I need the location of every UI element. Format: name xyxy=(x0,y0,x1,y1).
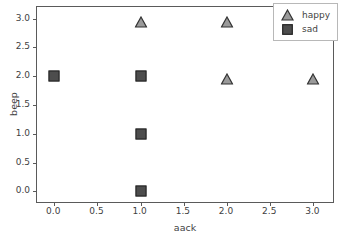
data-point-sad xyxy=(49,71,60,82)
square-icon xyxy=(279,24,295,35)
data-point-sad xyxy=(135,186,146,197)
x-axis-tick-label: 1.0 xyxy=(132,206,146,216)
data-point-happy xyxy=(307,70,320,82)
y-axis-tick-label: 0.0 xyxy=(30,185,44,195)
data-point-sad xyxy=(135,128,146,139)
data-point-happy xyxy=(221,70,234,82)
legend: happy sad xyxy=(273,3,338,41)
x-axis-tick-label: 0.5 xyxy=(89,206,103,216)
legend-label-sad: sad xyxy=(302,24,318,34)
legend-label-happy: happy xyxy=(302,10,330,20)
y-axis-tick-label: 3.0 xyxy=(30,13,44,23)
x-axis-label: aack xyxy=(174,222,196,233)
data-point-sad xyxy=(135,71,146,82)
legend-entry-sad: sad xyxy=(279,22,330,36)
x-axis-tick-label: 1.5 xyxy=(176,206,190,216)
y-axis-tick-label: 2.5 xyxy=(30,41,44,51)
scatter-plot-figure: aack beep happy sad 0.00.51.01.52.02.53.… xyxy=(0,0,341,241)
x-axis-tick-label: 2.5 xyxy=(262,206,276,216)
y-axis-tick-label: 1.5 xyxy=(30,99,44,109)
data-point-happy xyxy=(134,13,147,25)
data-point-happy xyxy=(221,13,234,25)
y-axis-tick-label: 0.5 xyxy=(30,157,44,167)
x-axis-tick-label: 2.0 xyxy=(219,206,233,216)
x-axis-tick-label: 3.0 xyxy=(305,206,319,216)
legend-entry-happy: happy xyxy=(279,8,330,22)
y-axis-tick-label: 1.0 xyxy=(30,128,44,138)
x-axis-tick-label: 0.0 xyxy=(46,206,60,216)
triangle-icon xyxy=(279,9,295,21)
y-axis-tick-label: 2.0 xyxy=(30,70,44,80)
